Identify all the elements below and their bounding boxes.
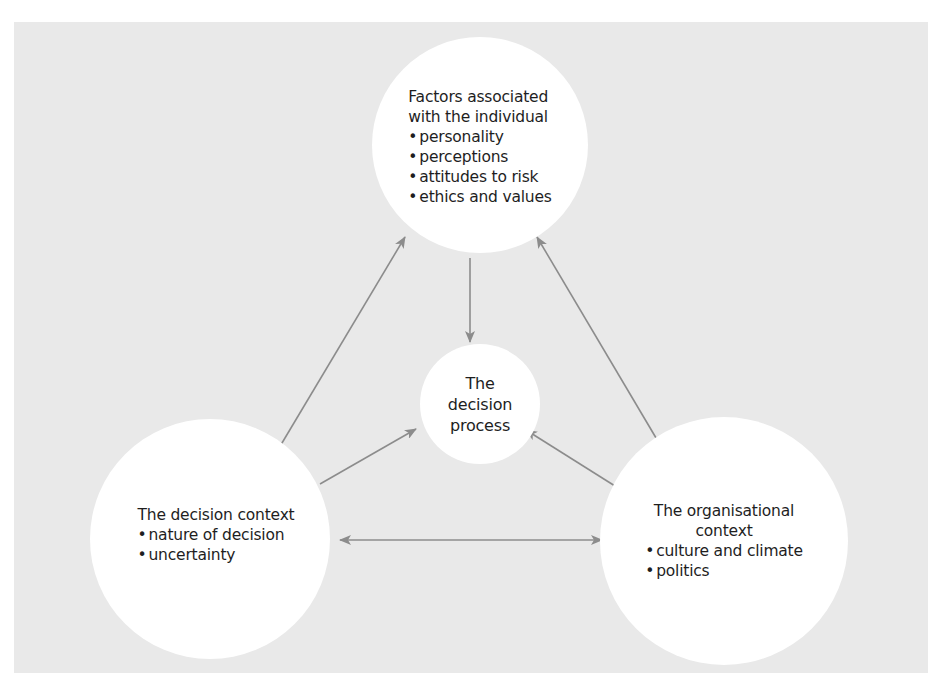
bullet-item: attitudes to risk	[408, 167, 551, 187]
node-org-title-line1: The organisational	[645, 501, 803, 521]
node-individual-title-line2: with the individual	[408, 107, 551, 127]
node-org-title-line2: context	[645, 521, 803, 541]
node-context-bullets: nature of decision uncertainty	[138, 525, 295, 565]
bullet-item: politics	[645, 561, 803, 581]
bullet-item: culture and climate	[645, 541, 803, 561]
node-individual-factors: Factors associated with the individual p…	[372, 37, 588, 253]
node-individual-title-line1: Factors associated	[408, 87, 551, 107]
arrow-org-to-individual	[537, 237, 662, 448]
arrow-org-to-process	[526, 430, 615, 486]
node-individual-bullets: personality perceptions attitudes to ris…	[408, 127, 551, 207]
bullet-item: personality	[408, 127, 551, 147]
bullet-item: uncertainty	[138, 545, 295, 565]
node-context-title: The decision context	[138, 505, 295, 525]
arrow-context-to-process	[320, 429, 416, 484]
bullet-item: ethics and values	[408, 187, 551, 207]
node-process-line3: process	[448, 415, 512, 436]
node-decision-context: The decision context nature of decision …	[90, 419, 330, 659]
arrow-context-to-individual	[279, 237, 405, 448]
bullet-item: perceptions	[408, 147, 551, 167]
node-decision-process: The decision process	[420, 344, 540, 464]
node-org-bullets: culture and climate politics	[645, 541, 803, 581]
node-organisational-context: The organisational context culture and c…	[600, 417, 848, 665]
node-process-line1: The	[448, 373, 512, 394]
node-process-line2: decision	[448, 394, 512, 415]
bullet-item: nature of decision	[138, 525, 295, 545]
